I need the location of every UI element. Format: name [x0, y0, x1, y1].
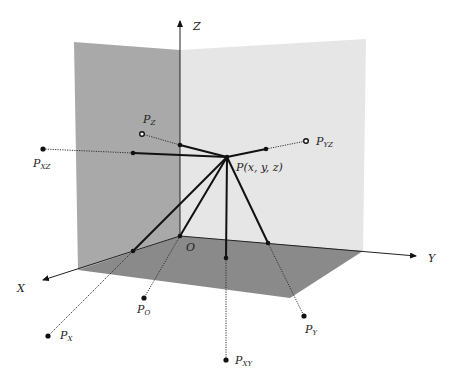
yz-plane: [180, 39, 366, 251]
z-axis-label: Z: [192, 20, 201, 33]
pz-marker: [140, 132, 145, 137]
po-marker: [141, 295, 146, 300]
point-p-label: P(x, y, z): [235, 161, 283, 174]
point-p-coords: (x, y, z): [243, 161, 282, 174]
origin-label: O: [186, 241, 195, 254]
pxy-label: PXY: [234, 354, 253, 368]
y-axis-point: [266, 241, 271, 246]
py-label: PY: [304, 323, 318, 337]
x-axis-point: [131, 249, 136, 254]
p-to-xy-line: [226, 157, 227, 258]
x-axis-label: X: [16, 282, 26, 295]
yz-plane-point: [264, 147, 269, 152]
z-axis-point: [178, 143, 183, 148]
pxz-label: PXZ: [32, 157, 50, 171]
pxy-marker: [223, 357, 228, 362]
po-label: PO: [136, 303, 150, 317]
origin-point: [178, 234, 183, 239]
y-axis-label: Y: [428, 252, 437, 265]
py-marker: [301, 313, 306, 318]
point-p: [225, 155, 230, 160]
coordinate-diagram: Z Y X O P(x, y, z) PZ PXZ PYZ PX PO PXY …: [0, 0, 459, 387]
xz-plane: [74, 42, 180, 270]
pyz-marker: [304, 139, 309, 144]
xy-plane-point: [224, 256, 229, 261]
px-marker: [45, 333, 50, 338]
px-label: PX: [59, 329, 73, 343]
pxz-marker: [40, 146, 45, 151]
xz-plane-point: [131, 151, 136, 156]
